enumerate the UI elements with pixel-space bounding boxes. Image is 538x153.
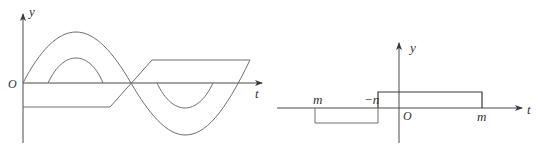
tick-label-left-m: m (313, 92, 322, 107)
small-positive-hump (48, 58, 103, 83)
right-y-label: y (408, 40, 416, 55)
left-t-label: t (255, 86, 259, 101)
right-origin-label: O (403, 109, 412, 123)
positive-rectangle (378, 92, 482, 108)
right-t-label: t (527, 102, 531, 117)
small-negative-hump (157, 83, 213, 108)
figure-canvas: y O t y t O m −n m (0, 0, 538, 153)
left-origin-label: O (8, 77, 17, 91)
right-diagram: y t O m −n m (277, 40, 531, 143)
tick-label-right-m: m (477, 109, 486, 124)
negative-rectangle (315, 108, 378, 123)
left-y-label: y (27, 4, 35, 19)
left-diagram: y O t (8, 4, 262, 143)
tick-label-neg-n: −n (364, 92, 379, 107)
